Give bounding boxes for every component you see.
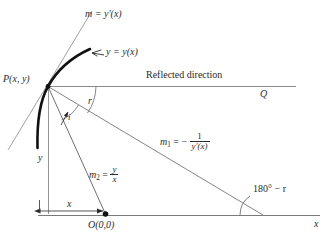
m1-expression: m1 = − 1 y′(x)	[160, 133, 210, 153]
m2-fraction: y x	[110, 165, 118, 185]
curve-label: y = y(x)	[106, 47, 138, 57]
radial-line-m2	[48, 87, 105, 214]
m1-fraction: 1 y′(x)	[190, 132, 210, 152]
figure-canvas	[0, 0, 329, 235]
reflection-geometry-figure: m = y′(x) y = y(x) P(x, y) Reflected dir…	[0, 0, 329, 235]
m2-expression: m2 = y x	[89, 166, 118, 186]
point-o-marker	[103, 211, 109, 217]
m2-subscript: 2	[96, 174, 100, 182]
m1-denominator: y′(x)	[190, 141, 210, 151]
point-p-marker	[46, 84, 51, 89]
m2-equals: =	[102, 169, 108, 180]
x-axis-label: x	[314, 219, 318, 229]
m1-numerator: 1	[190, 132, 210, 141]
origin-label: O(0,0)	[88, 220, 114, 230]
angle-i-label: i	[68, 113, 71, 122]
reflected-direction-label: Reflected direction	[146, 70, 222, 80]
angle-arc-180-minus-r	[240, 196, 250, 215]
y-dimension-label: y	[38, 153, 42, 163]
point-q-label: Q	[260, 89, 267, 99]
normal-line-m1	[48, 87, 263, 216]
point-p-label: P(x, y)	[3, 74, 30, 84]
tangent-slope-label: m = y′(x)	[85, 9, 122, 19]
m2-denominator: x	[110, 174, 118, 184]
m2-numerator: y	[110, 165, 118, 174]
m1-equals: = −	[173, 136, 187, 147]
curve-y-of-x	[37, 49, 90, 148]
angle-r-label: r	[88, 96, 92, 106]
m1-subscript: 1	[167, 141, 171, 149]
x-dimension-label: x	[67, 199, 71, 209]
angle-180-minus-r-label: 180° − r	[253, 184, 286, 194]
